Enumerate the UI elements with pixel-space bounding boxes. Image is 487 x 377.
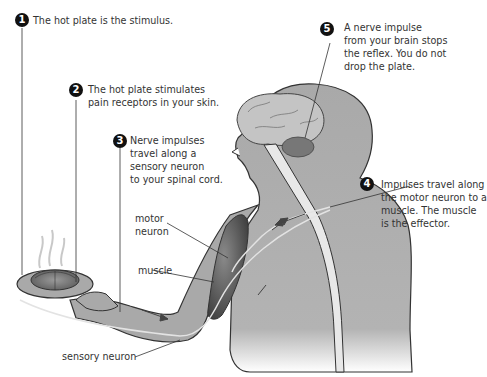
step-text: The hot plate is the stimulus. bbox=[33, 14, 173, 27]
step-text: is the effector. bbox=[381, 217, 487, 230]
step-text: the reflex. You do not bbox=[344, 47, 447, 60]
step-badge: 4 bbox=[360, 177, 374, 191]
step-text: pain receptors in your skin. bbox=[88, 96, 219, 109]
step-text: from your brain stops bbox=[344, 34, 447, 47]
hot-plate bbox=[17, 230, 93, 298]
cerebellum bbox=[282, 137, 314, 157]
motor-neuron-label: motor neuron bbox=[135, 212, 169, 238]
muscle-label: muscle bbox=[138, 264, 172, 277]
sensory-neuron-label: sensory neuron bbox=[62, 350, 136, 363]
step-text: Impulses travel along bbox=[381, 178, 487, 191]
step-text: to your spinal cord. bbox=[130, 173, 223, 186]
step-text: sensory neuron bbox=[130, 160, 223, 173]
step-text: The hot plate stimulates bbox=[88, 83, 219, 96]
step-badge: 1 bbox=[15, 13, 29, 27]
step-text: the motor neuron to a bbox=[381, 191, 487, 204]
step-badge: 5 bbox=[320, 22, 334, 36]
step-text: A nerve impulse bbox=[344, 21, 447, 34]
step-text: muscle. The muscle bbox=[381, 204, 487, 217]
step-text: travel along a bbox=[130, 147, 223, 160]
step-badge: 2 bbox=[69, 83, 83, 97]
step-text: drop the plate. bbox=[344, 60, 447, 73]
steam bbox=[39, 230, 64, 268]
step-text: Nerve impulses bbox=[130, 134, 223, 147]
step-badge: 3 bbox=[113, 134, 127, 148]
